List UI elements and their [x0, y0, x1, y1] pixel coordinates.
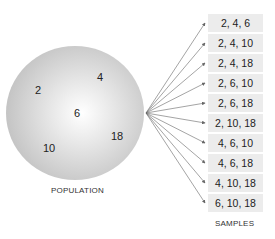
sample-box: 4, 6, 18 — [208, 154, 263, 172]
sample-box: 6, 10, 18 — [208, 194, 263, 212]
sample-box: 2, 6, 10 — [208, 74, 263, 92]
samples-label: SAMPLES — [215, 219, 254, 228]
sample-box: 4, 10, 18 — [208, 174, 263, 192]
sample-box: 2, 4, 10 — [208, 34, 263, 52]
sample-box: 4, 6, 10 — [208, 134, 263, 152]
sample-box: 2, 10, 18 — [208, 114, 263, 132]
sample-box: 2, 4, 6 — [208, 14, 263, 32]
sample-box: 2, 6, 18 — [208, 94, 263, 112]
sample-box: 2, 4, 18 — [208, 54, 263, 72]
